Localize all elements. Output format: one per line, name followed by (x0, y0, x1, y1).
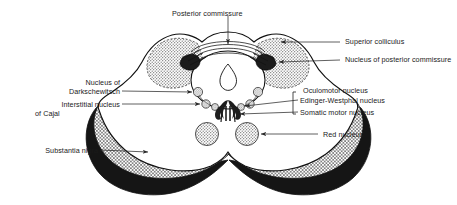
label-superior-colliculus: Superior colliculus (345, 37, 404, 46)
label-oculomotor-nucleus: Oculomotor nucleus (303, 86, 368, 95)
label-nucleus-of-posterior-commissure: Nucleus of posterior commissure (345, 55, 451, 64)
label-substantia-nigra: Substantia nigra (8, 146, 98, 155)
label-nucleus-of-darkschewitsch-line2: Darkschewitsch (10, 87, 120, 96)
label-edinger-westphal-nucleus: Edinger-Westphal nucleus (300, 96, 385, 105)
label-posterior-commissure: Posterior commissure (172, 9, 243, 18)
label-interstitial-nucleus-of-cajal-line1: Interstitial nucleus (10, 100, 120, 109)
label-interstitial-nucleus-of-cajal-line2: of Cajal (35, 109, 60, 118)
figure-canvas: Posterior commissure Superior colliculus… (0, 0, 457, 205)
label-nucleus-of-darkschewitsch-line1: Nucleus of (10, 78, 120, 87)
label-red-nucleus: Red nucleus (323, 130, 364, 139)
label-somatic-motor-nucleus: Somatic motor nucleus (300, 108, 374, 117)
